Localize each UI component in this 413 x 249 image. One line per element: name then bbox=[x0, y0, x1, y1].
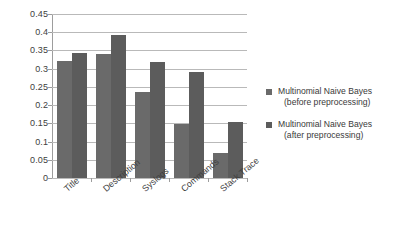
x-axis-tick-label: Description bbox=[101, 157, 142, 194]
x-axis-tick-label: Stack Trace bbox=[218, 155, 261, 193]
legend-label: Multinomial Naive Bayes bbox=[278, 119, 413, 130]
legend-label-sub: (before preprocessing) bbox=[278, 97, 413, 108]
bar-chart: 0.450.40.350.30.250.20.150.10.050 TitleD… bbox=[0, 0, 413, 249]
legend-entry: Multinomial Naive Bayes(before preproces… bbox=[266, 86, 413, 108]
x-axis-tick-label: Syslogs bbox=[140, 166, 171, 194]
legend-label-sub: (after preprocessing) bbox=[278, 130, 413, 141]
chart-legend: Multinomial Naive Bayes(before preproces… bbox=[266, 86, 413, 152]
legend-label: Multinomial Naive Bayes bbox=[278, 86, 413, 97]
x-axis-tick-label: Commands bbox=[179, 156, 221, 193]
legend-entry: Multinomial Naive Bayes(after preprocess… bbox=[266, 119, 413, 141]
legend-swatch bbox=[266, 122, 272, 128]
legend-swatch bbox=[266, 89, 272, 95]
x-axis-tick-label: Title bbox=[62, 175, 81, 193]
